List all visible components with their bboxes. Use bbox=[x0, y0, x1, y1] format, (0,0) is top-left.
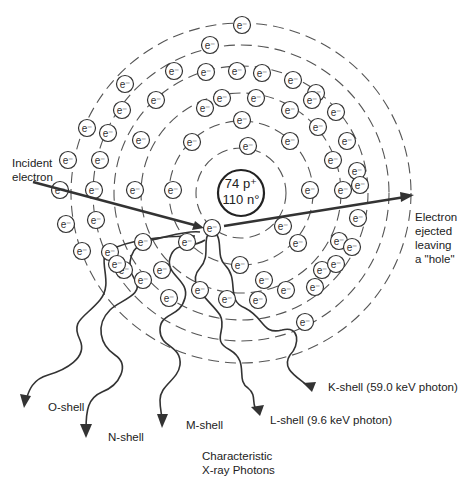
svg-text:e⁻: e⁻ bbox=[195, 285, 206, 296]
svg-text:e⁻: e⁻ bbox=[305, 185, 316, 196]
svg-text:e⁻: e⁻ bbox=[164, 293, 175, 304]
electron-icon: e⁻ bbox=[88, 212, 105, 229]
electron-icon: e⁻ bbox=[248, 90, 265, 107]
svg-text:e⁻: e⁻ bbox=[300, 317, 311, 328]
electron-icon: e⁻ bbox=[219, 291, 236, 308]
electron-icon: e⁻ bbox=[60, 152, 77, 169]
m-shell-arrowhead bbox=[157, 414, 168, 428]
l-shell-arrowhead bbox=[251, 405, 264, 416]
svg-text:e⁻: e⁻ bbox=[328, 155, 339, 166]
electron-icon: e⁻ bbox=[154, 262, 171, 279]
svg-text:e⁻: e⁻ bbox=[352, 166, 363, 177]
svg-text:e⁻: e⁻ bbox=[205, 40, 216, 51]
nucleus: 74 p⁺ 110 n° bbox=[218, 170, 264, 216]
svg-text:e⁻: e⁻ bbox=[342, 136, 353, 147]
electron-icon: e⁻ bbox=[339, 133, 356, 150]
svg-text:e⁻: e⁻ bbox=[347, 242, 358, 253]
svg-text:e⁻: e⁻ bbox=[331, 259, 342, 270]
electron-icon: e⁻ bbox=[114, 102, 131, 119]
svg-text:e⁻: e⁻ bbox=[91, 215, 102, 226]
svg-text:e⁻: e⁻ bbox=[243, 141, 254, 152]
svg-text:e⁻: e⁻ bbox=[217, 93, 228, 104]
electron-icon: e⁻ bbox=[92, 152, 109, 169]
electron-icon: e⁻ bbox=[328, 256, 345, 273]
o-shell-arrowhead bbox=[20, 394, 31, 408]
electron-icon: e⁻ bbox=[135, 234, 152, 251]
svg-text:e⁻: e⁻ bbox=[207, 223, 218, 234]
svg-text:e⁻: e⁻ bbox=[257, 68, 268, 79]
electron-icon: e⁻ bbox=[256, 272, 273, 289]
ejected-electron-label: Electron ejected leaving a "hole" bbox=[415, 210, 457, 266]
electron-icon: e⁻ bbox=[74, 243, 91, 260]
n-shell-photon-label: N-shell bbox=[108, 430, 144, 444]
electrons: e⁻e⁻e⁻e⁻e⁻e⁻e⁻e⁻e⁻e⁻e⁻e⁻e⁻e⁻e⁻e⁻e⁻e⁻e⁻e⁻… bbox=[52, 17, 369, 331]
electron-icon: e⁻ bbox=[278, 282, 295, 299]
svg-text:e⁻: e⁻ bbox=[313, 122, 324, 133]
m-shell-photon-label: M-shell bbox=[186, 418, 223, 432]
svg-text:e⁻: e⁻ bbox=[288, 75, 299, 86]
electron-icon: e⁻ bbox=[179, 234, 196, 251]
electron-icon: e⁻ bbox=[310, 119, 327, 136]
electron-icon: e⁻ bbox=[234, 112, 251, 129]
incident-arrowhead bbox=[192, 221, 204, 230]
svg-text:e⁻: e⁻ bbox=[355, 180, 366, 191]
electron-icon: e⁻ bbox=[232, 257, 249, 274]
electron-icon: e⁻ bbox=[161, 290, 178, 307]
electron-icon: e⁻ bbox=[165, 182, 182, 199]
electron-icon: e⁻ bbox=[285, 72, 302, 89]
svg-text:e⁻: e⁻ bbox=[353, 213, 364, 224]
nucleus-protons: 74 p⁺ bbox=[225, 176, 257, 191]
svg-text:e⁻: e⁻ bbox=[151, 95, 162, 106]
svg-text:e⁻: e⁻ bbox=[200, 103, 211, 114]
svg-text:e⁻: e⁻ bbox=[89, 185, 100, 196]
svg-text:e⁻: e⁻ bbox=[138, 275, 149, 286]
svg-text:e⁻: e⁻ bbox=[237, 115, 248, 126]
k-shell-photon-label: K-shell (59.0 keV photon) bbox=[328, 380, 458, 394]
svg-text:e⁻: e⁻ bbox=[317, 265, 328, 276]
svg-text:e⁻: e⁻ bbox=[130, 185, 141, 196]
electron-icon: e⁻ bbox=[133, 132, 150, 149]
electron-icon: e⁻ bbox=[184, 134, 201, 151]
svg-text:e⁻: e⁻ bbox=[310, 282, 321, 293]
svg-text:e⁻: e⁻ bbox=[117, 105, 128, 116]
svg-text:e⁻: e⁻ bbox=[201, 67, 212, 78]
nucleus-neutrons: 110 n° bbox=[223, 192, 260, 207]
svg-text:e⁻: e⁻ bbox=[237, 20, 248, 31]
electron-icon: e⁻ bbox=[325, 152, 342, 169]
electron-icon: e⁻ bbox=[350, 210, 367, 227]
diagram-caption: Characteristic X-ray Photons bbox=[202, 449, 275, 477]
svg-text:e⁻: e⁻ bbox=[232, 66, 243, 77]
svg-text:e⁻: e⁻ bbox=[331, 107, 342, 118]
electron-icon: e⁻ bbox=[254, 65, 271, 82]
svg-text:e⁻: e⁻ bbox=[138, 237, 149, 248]
electron-icon: e⁻ bbox=[290, 235, 307, 252]
svg-text:e⁻: e⁻ bbox=[278, 221, 289, 232]
svg-text:e⁻: e⁻ bbox=[235, 260, 246, 271]
svg-text:e⁻: e⁻ bbox=[334, 236, 345, 247]
electron-icon: e⁻ bbox=[240, 138, 257, 155]
electron-icon: e⁻ bbox=[198, 64, 215, 81]
svg-text:e⁻: e⁻ bbox=[103, 128, 114, 139]
svg-text:e⁻: e⁻ bbox=[293, 238, 304, 249]
l-shell-photon-label: L-shell (9.6 keV photon) bbox=[270, 413, 392, 427]
n-shell-photon-path bbox=[86, 232, 200, 430]
electron-icon: e⁻ bbox=[275, 218, 292, 235]
incident-electron-label: Incident electron bbox=[12, 156, 53, 184]
svg-text:e⁻: e⁻ bbox=[259, 275, 270, 286]
svg-text:e⁻: e⁻ bbox=[285, 105, 296, 116]
electron-icon: e⁻ bbox=[234, 17, 251, 34]
svg-text:e⁻: e⁻ bbox=[112, 259, 123, 270]
electron-icon: e⁻ bbox=[335, 182, 352, 199]
electron-icon: e⁻ bbox=[307, 279, 324, 296]
svg-text:e⁻: e⁻ bbox=[136, 135, 147, 146]
svg-text:e⁻: e⁻ bbox=[251, 93, 262, 104]
electron-icon: e⁻ bbox=[229, 63, 246, 80]
electron-icon: e⁻ bbox=[166, 63, 183, 80]
svg-text:e⁻: e⁻ bbox=[338, 185, 349, 196]
svg-text:e⁻: e⁻ bbox=[95, 155, 106, 166]
electron-icon: e⁻ bbox=[148, 92, 165, 109]
electron-icon: e⁻ bbox=[127, 182, 144, 199]
electron-icon: e⁻ bbox=[117, 76, 134, 93]
electron-icon: e⁻ bbox=[352, 177, 369, 194]
electron-icon: e⁻ bbox=[100, 125, 117, 142]
